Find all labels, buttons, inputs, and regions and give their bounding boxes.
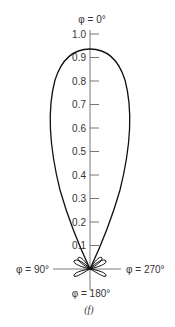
tick-label: 0.8	[72, 76, 86, 87]
figure-caption: (f)	[84, 304, 94, 316]
tick-label: 0.4	[72, 170, 86, 181]
angle-label-left: φ = 90°	[16, 264, 49, 275]
radial-ticks	[90, 34, 99, 246]
tick-label: 0.2	[72, 217, 86, 228]
tick-label: 1.0	[72, 29, 86, 40]
tick-label: 0.9	[72, 52, 86, 63]
polar-pattern-diagram: 1.0 0.9 0.8 0.7 0.6 0.5 0.4 0.3 0.2 0.1 …	[0, 0, 175, 327]
tick-label: 0.3	[72, 193, 86, 204]
angle-label-right: φ = 270°	[126, 264, 165, 275]
angle-label-bottom: φ = 180°	[72, 288, 111, 299]
angle-label-top: φ = 0°	[78, 14, 105, 25]
tick-label: 0.5	[72, 146, 86, 157]
tick-label: 0.6	[72, 123, 86, 134]
tick-label: 0.7	[72, 99, 86, 110]
radial-tick-labels: 1.0 0.9 0.8 0.7 0.6 0.5 0.4 0.3 0.2 0.1	[72, 29, 86, 252]
